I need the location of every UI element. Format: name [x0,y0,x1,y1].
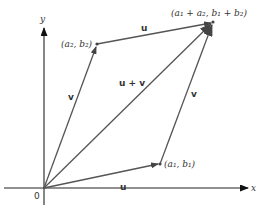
y-axis-label: y [39,14,46,24]
point-p1 [158,162,161,165]
label-u-plus-v: u + v [119,78,145,88]
point-p1-label: (a₁, b₁) [164,159,196,169]
label-u-bottom: u [120,182,126,192]
point-p2-label: (a₂, b₂) [61,39,93,49]
point-sum-label: (a₁ + a₂, b₁ + b₂) [171,8,247,18]
vector-diagram: x y 0 (a₁, b₁) (a₂, b₂) (a₁ + a₂, b₁ + b… [0,0,261,210]
x-axis-label: x [251,183,256,193]
vector-v-from-p1 [160,25,212,164]
vector-u-from-origin [44,164,158,188]
point-p2 [95,42,98,45]
label-v-left: v [68,92,74,102]
label-v-right: v [191,89,197,99]
point-sum [211,20,214,23]
vector-v-from-origin [44,47,96,188]
origin-label: 0 [34,191,40,201]
label-u-top: u [141,23,147,33]
